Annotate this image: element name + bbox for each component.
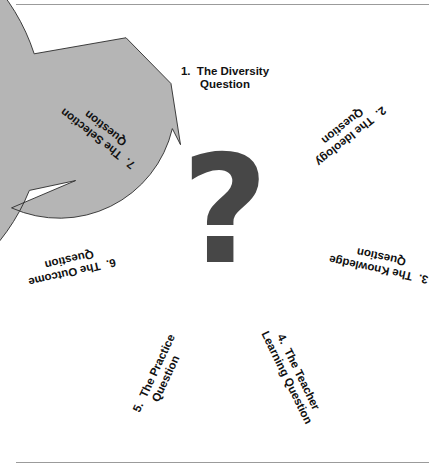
segment-label-2: 2. The IdeologyQuestion (305, 94, 389, 168)
segment-label-6: 6. The OutcomeQuestion (24, 244, 117, 288)
segment-label-1: 1. The DiversityQuestion (181, 65, 270, 90)
cycle-diagram: ? 1. The DiversityQuestion2. The Ideolog… (0, 0, 445, 473)
segment-label-5: 5. The PracticeQuestion (130, 332, 188, 419)
figure-root: ? 1. The DiversityQuestion2. The Ideolog… (0, 0, 445, 473)
segment-label-3: 3. The KnowledgeQuestion (328, 241, 432, 286)
center-question-mark: ? (181, 123, 268, 297)
bottom-horizontal-rule (16, 462, 429, 463)
segment-label-4: 4. The TeacherLearning Question (259, 324, 326, 426)
question-mark-glyph: ? (181, 123, 268, 297)
segment-label-line2: Question (200, 78, 250, 90)
segment-label-line1: 1. The Diversity (181, 65, 270, 77)
